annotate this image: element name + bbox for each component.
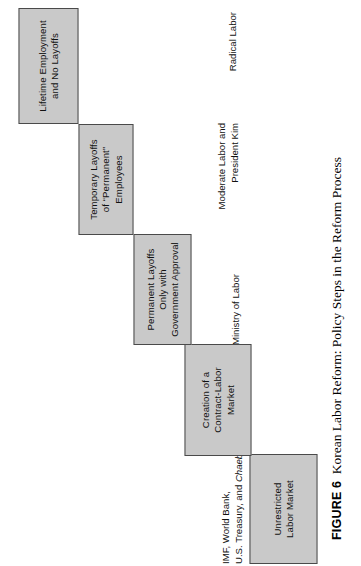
step-box-permanent-layoffs: Permanent Layoffs Only with Government A… [133, 234, 191, 345]
actor-label-imf-text: IMF, World Bank, U.S. Treasury, and [219, 482, 242, 564]
step-label-permanent-layoffs: Permanent Layoffs Only with Government A… [144, 239, 181, 340]
figure-number-label: FIGURE 6 [329, 481, 343, 540]
step-label-temporary-layoffs: Temporary Layoffs of “Permanent” Employe… [87, 136, 124, 222]
actor-label-radical-labor: Radical Labor [226, 12, 238, 124]
figure-container: IMF, World Bank, U.S. Treasury, and Chae… [0, 0, 361, 566]
actor-label-moderate-labor-president-kim: Moderate Labor and President Kim [215, 123, 240, 235]
figure-caption: FIGURE 6 Korean Labor Reform: Policy Ste… [328, 18, 344, 548]
actor-label-ministry-of-labor: Ministry of Labor [229, 233, 241, 345]
step-box-unrestricted-labor-market: Unrestricted Labor Market [249, 454, 317, 564]
caption-spacer [328, 474, 343, 481]
step-label-unrestricted-labor-market: Unrestricted Labor Market [271, 477, 296, 541]
step-label-contract-labor-market: Creation of a Contract-Labor Market [199, 364, 236, 435]
step-box-lifetime-employment: Lifetime Employment and No Layoffs [18, 8, 78, 124]
step-box-contract-labor-market: Creation of a Contract-Labor Market [184, 344, 251, 456]
figure-title: Korean Labor Reform: Policy Steps in the… [328, 157, 343, 474]
step-box-temporary-layoffs: Temporary Layoffs of “Permanent” Employe… [78, 124, 133, 235]
step-label-lifetime-employment: Lifetime Employment and No Layoffs [36, 17, 61, 114]
staircase-diagram: IMF, World Bank, U.S. Treasury, and Chae… [0, 0, 361, 566]
